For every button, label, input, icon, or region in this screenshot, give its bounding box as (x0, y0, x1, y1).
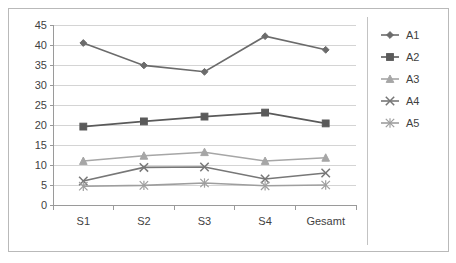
marker-diamond (262, 33, 269, 40)
marker-square (262, 109, 269, 116)
legend-item-a3[interactable]: A3 (381, 73, 419, 85)
legend-item-a1[interactable]: A1 (381, 29, 419, 41)
marker-square (322, 120, 329, 127)
x-axis-category-label: S1 (77, 215, 90, 227)
legend-item-a4[interactable]: A4 (381, 95, 419, 107)
line-chart: 051015202530354045S1S2S3S4GesamtA1A2A3A4… (9, 9, 450, 253)
legend-item-a5[interactable]: A5 (381, 117, 419, 129)
y-axis-tick-label: 5 (41, 179, 47, 191)
series-line-a1 (83, 36, 325, 72)
legend-label: A4 (406, 95, 419, 107)
legend-label: A2 (406, 51, 419, 63)
legend-item-a2[interactable]: A2 (381, 51, 419, 63)
marker-diamond (322, 46, 329, 53)
y-axis-tick-label: 15 (35, 139, 47, 151)
y-axis-tick-label: 20 (35, 119, 47, 131)
x-axis-category-label: S2 (137, 215, 150, 227)
series-a3 (80, 148, 330, 164)
legend-label: A3 (406, 73, 419, 85)
y-axis-tick-label: 25 (35, 99, 47, 111)
marker-diamond (141, 62, 148, 69)
marker-diamond (387, 32, 394, 39)
legend-label: A1 (406, 29, 419, 41)
x-axis-category-label: Gesamt (306, 215, 345, 227)
y-axis-tick-label: 10 (35, 159, 47, 171)
y-axis-tick-label: 40 (35, 39, 47, 51)
series-a1 (80, 33, 329, 75)
x-axis-category-label: S3 (198, 215, 211, 227)
y-axis-tick-label: 0 (41, 199, 47, 211)
y-axis-tick-label: 45 (35, 19, 47, 31)
chart-frame: 051015202530354045S1S2S3S4GesamtA1A2A3A4… (8, 8, 449, 252)
y-axis-tick-label: 30 (35, 79, 47, 91)
marker-diamond (201, 68, 208, 75)
series-a2 (80, 109, 329, 130)
marker-square (201, 113, 208, 120)
legend-label: A5 (406, 117, 419, 129)
x-axis-category-label: S4 (258, 215, 271, 227)
chart-plot-area: 051015202530354045S1S2S3S4GesamtA1A2A3A4… (9, 9, 450, 253)
marker-square (387, 54, 394, 61)
marker-square (80, 123, 87, 130)
marker-square (141, 118, 148, 125)
y-axis-tick-label: 35 (35, 59, 47, 71)
